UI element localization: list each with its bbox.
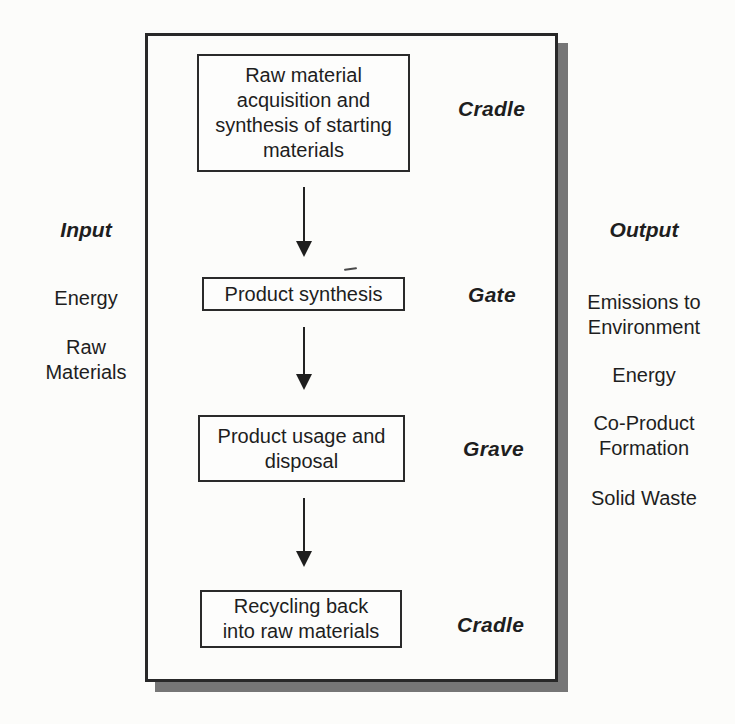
- stage-label-grave: Grave: [463, 437, 524, 461]
- flow-box-raw-material-acquisition: Raw material acquisition and synthesis o…: [197, 54, 410, 172]
- stage-label-cradle-bottom: Cradle: [457, 613, 524, 637]
- flow-box-recycling-text: Recycling back into raw materials: [223, 594, 380, 644]
- arrow-shaft: [303, 187, 305, 243]
- flow-box-product-usage-disposal: Product usage and disposal: [198, 415, 405, 482]
- output-item-solid-waste: Solid Waste: [585, 486, 703, 511]
- down-arrow-2: [296, 327, 312, 390]
- arrow-head-icon: [296, 374, 312, 390]
- down-arrow-3: [296, 498, 312, 567]
- input-item-energy: Energy: [30, 286, 142, 311]
- scanned-diagram-page: Raw material acquisition and synthesis o…: [0, 0, 735, 724]
- output-item-co-product: Co-Product Formation: [585, 411, 703, 461]
- arrow-shaft: [303, 327, 305, 376]
- output-item-emissions: Emissions to Environment: [585, 290, 703, 340]
- output-item-energy: Energy: [585, 363, 703, 388]
- flow-box-recycling: Recycling back into raw materials: [200, 590, 402, 648]
- arrow-shaft: [303, 498, 305, 553]
- stage-label-gate: Gate: [468, 283, 516, 307]
- flow-box-product-usage-disposal-text: Product usage and disposal: [218, 424, 386, 474]
- flow-box-product-synthesis-text: Product synthesis: [225, 282, 383, 307]
- stage-label-cradle-top: Cradle: [458, 97, 525, 121]
- flow-box-product-synthesis: Product synthesis: [202, 277, 405, 311]
- down-arrow-1: [296, 187, 312, 257]
- input-column-title: Input: [30, 217, 142, 242]
- arrow-head-icon: [296, 241, 312, 257]
- flow-box-raw-material-acquisition-text: Raw material acquisition and synthesis o…: [215, 63, 392, 163]
- arrow-head-icon: [296, 551, 312, 567]
- input-item-raw-materials: Raw Materials: [30, 335, 142, 385]
- output-column-title: Output: [585, 217, 703, 242]
- scan-artifact-mark: [344, 267, 357, 271]
- lifecycle-diagram-frame: Raw material acquisition and synthesis o…: [145, 33, 558, 682]
